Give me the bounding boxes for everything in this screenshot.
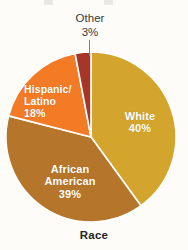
pie-leader-line-other bbox=[89, 40, 90, 56]
pie-label-other-name: Other bbox=[76, 12, 105, 24]
chart-axis-title: Race bbox=[0, 229, 188, 241]
pie-label-white-name: White bbox=[125, 110, 155, 122]
pie-label-hispanic-latino-value: 18% bbox=[24, 108, 86, 120]
pie-label-african-american-value: 39% bbox=[28, 188, 112, 200]
pie-label-african-american-line2: American bbox=[45, 175, 96, 187]
pie-label-hispanic-latino-line1: Hispanic/ bbox=[24, 83, 72, 95]
pie-label-hispanic-latino-line2: Latino bbox=[24, 95, 56, 107]
pie-label-white: White 40% bbox=[112, 110, 168, 135]
pie-chart-race: Other 3% White 40% African American 39% … bbox=[0, 0, 188, 250]
pie-label-african-american-line1: African bbox=[51, 163, 90, 175]
pie-label-white-value: 40% bbox=[112, 122, 168, 134]
pie-label-other-value: 3% bbox=[58, 26, 122, 40]
pie-label-african-american: African American 39% bbox=[28, 163, 112, 200]
pie-label-other: Other 3% bbox=[58, 12, 122, 40]
pie-label-hispanic-latino: Hispanic/ Latino 18% bbox=[24, 84, 86, 119]
